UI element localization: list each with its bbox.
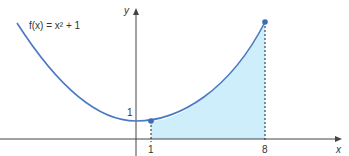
x-axis-arrow-icon: [335, 136, 342, 142]
x-tick-8: 8: [262, 144, 268, 155]
x-tick-1: 1: [148, 144, 154, 155]
x-axis-label: x: [335, 144, 342, 155]
function-label: f(x) = x² + 1: [29, 20, 81, 31]
point-x1: [148, 118, 154, 124]
point-x8: [262, 19, 268, 25]
shaded-area: [151, 22, 265, 139]
function-graph: f(x) = x² + 1 y x 1 1 8: [0, 0, 349, 156]
y-axis-arrow-icon: [133, 8, 139, 15]
y-tick-1: 1: [127, 107, 133, 118]
y-axis-label: y: [123, 5, 130, 16]
